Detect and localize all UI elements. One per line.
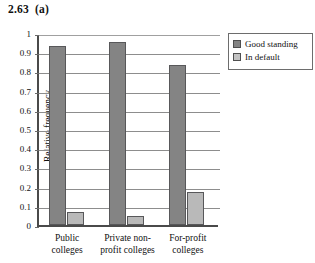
bar-good-standing bbox=[109, 42, 126, 225]
bar-in-default bbox=[67, 212, 84, 225]
chart-legend: Good standing In default bbox=[228, 33, 313, 70]
y-axis-tick-label: 0.5 bbox=[0, 126, 31, 135]
bar-good-standing bbox=[169, 65, 186, 225]
legend-item: In default bbox=[233, 52, 310, 62]
legend-swatch-in-default bbox=[233, 53, 241, 61]
bar-in-default bbox=[127, 216, 144, 225]
y-axis-tick-label: 0.6 bbox=[0, 107, 31, 116]
bar-group bbox=[39, 33, 99, 225]
y-axis-tick-label: 0.4 bbox=[0, 145, 31, 154]
y-axis-tick bbox=[35, 227, 39, 228]
category-label-line: colleges bbox=[153, 245, 223, 257]
legend-label-good-standing: Good standing bbox=[245, 39, 298, 49]
x-axis-category-label: For-profitcolleges bbox=[153, 233, 223, 256]
y-axis-tick-label: 0.7 bbox=[0, 88, 31, 97]
y-axis-tick-label: 0 bbox=[0, 222, 31, 231]
plot-area: Relative frequency bbox=[37, 35, 218, 227]
y-axis-tick-label: 0.1 bbox=[0, 203, 31, 212]
legend-label-in-default: In default bbox=[245, 52, 280, 62]
bar-good-standing bbox=[49, 46, 66, 225]
legend-item: Good standing bbox=[233, 39, 310, 49]
y-axis-tick-label: 0.3 bbox=[0, 164, 31, 173]
bar-group bbox=[99, 33, 159, 225]
category-label-line: For-profit bbox=[153, 233, 223, 245]
bar-group bbox=[160, 33, 220, 225]
y-axis-tick-label: 0.2 bbox=[0, 184, 31, 193]
y-axis-tick-labels: 10.90.80.70.60.50.40.30.20.10 bbox=[0, 0, 33, 263]
y-axis-tick-label: 0.8 bbox=[0, 68, 31, 77]
bar-in-default bbox=[187, 192, 204, 225]
y-axis-tick-label: 1 bbox=[0, 30, 31, 39]
legend-swatch-good-standing bbox=[233, 40, 241, 48]
figure-container: 2.63 (a) 10.90.80.70.60.50.40.30.20.10 R… bbox=[0, 0, 315, 263]
y-axis-tick-label: 0.9 bbox=[0, 49, 31, 58]
